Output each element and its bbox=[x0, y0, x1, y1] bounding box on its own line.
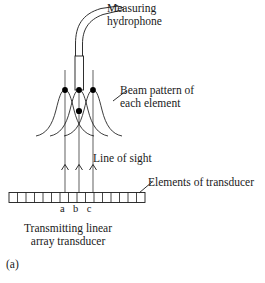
label-panel-a: (a) bbox=[6, 258, 19, 271]
label-transmitting-line1: Transmitting linear bbox=[24, 222, 112, 235]
label-element-letters: a b c bbox=[60, 202, 97, 215]
label-measuring-hydrophone: Measuring hydrophone bbox=[107, 2, 162, 28]
figure-panel-a: Measuring hydrophone Beam pattern of eac… bbox=[0, 0, 265, 283]
measurement-point-c bbox=[90, 87, 96, 93]
transducer-array bbox=[9, 193, 145, 203]
label-element-b: b bbox=[73, 203, 79, 214]
label-elements-of-transducer: Elements of transducer bbox=[148, 176, 254, 189]
label-element-c: c bbox=[87, 203, 92, 214]
label-beam-pattern-line2: each element bbox=[120, 97, 194, 110]
measurement-point-a bbox=[62, 87, 68, 93]
measurement-point-b bbox=[76, 87, 82, 93]
measurement-point-center bbox=[76, 108, 82, 114]
label-transmitting-line2: array transducer bbox=[24, 235, 112, 248]
label-measuring-hydrophone-line2: hydrophone bbox=[107, 15, 162, 28]
label-beam-pattern: Beam pattern of each element bbox=[120, 84, 194, 110]
label-element-a: a bbox=[60, 203, 65, 214]
label-measuring-hydrophone-line1: Measuring bbox=[107, 2, 162, 15]
label-line-of-sight: Line of sight bbox=[93, 152, 152, 165]
label-beam-pattern-line1: Beam pattern of bbox=[120, 84, 194, 97]
label-transmitting-array: Transmitting linear array transducer bbox=[24, 222, 112, 248]
hydrophone-body-icon bbox=[75, 56, 84, 90]
